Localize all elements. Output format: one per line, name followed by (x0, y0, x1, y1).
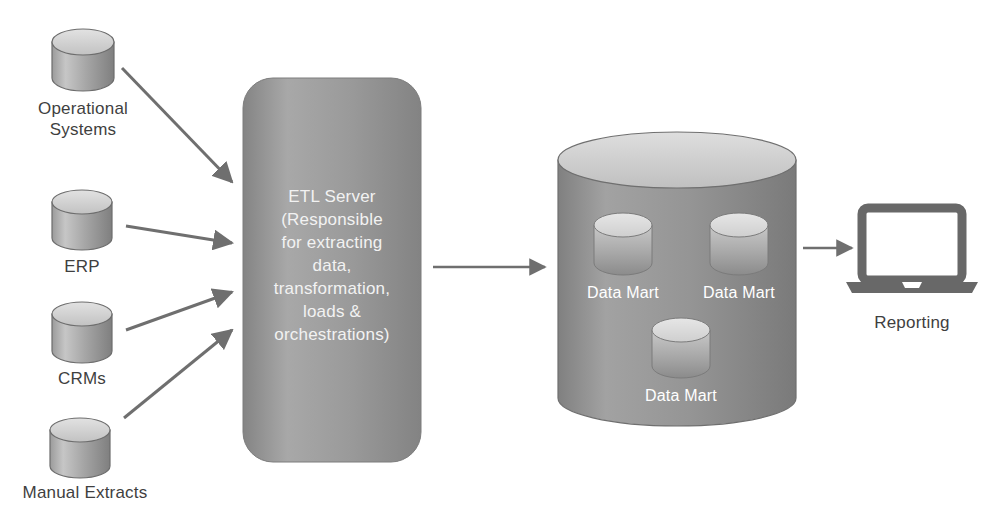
data-mart-cylinder (710, 213, 768, 275)
source-label-crms: CRMs (22, 368, 142, 389)
database-cylinder-icon (52, 190, 112, 250)
diagram-svg (0, 0, 994, 515)
source-label-manual-extracts: Manual Extracts (0, 482, 170, 503)
source-label-operational-systems: Operational Systems (8, 98, 158, 140)
data-mart-label: Data Mart (683, 283, 795, 303)
source-label-erp: ERP (22, 256, 142, 277)
diagram-canvas: Operational Systems ERP CRMs Manual Extr… (0, 0, 994, 515)
data-mart-cylinder (652, 318, 710, 378)
etl-server-label: ETL Server (Responsible for extracting d… (247, 185, 417, 346)
reporting-label: Reporting (852, 312, 972, 333)
database-cylinder-icon (50, 418, 110, 478)
database-cylinder-icon (52, 302, 112, 363)
laptop-icon (846, 208, 978, 293)
arrow-erp-to-etl (126, 226, 232, 243)
data-mart-label: Data Mart (567, 283, 679, 303)
data-mart-cylinder (594, 213, 652, 275)
database-cylinder-icon (52, 29, 114, 91)
data-warehouse-cylinder (558, 132, 796, 426)
data-mart-label: Data Mart (625, 386, 737, 406)
arrow-crms-to-etl (126, 292, 232, 330)
